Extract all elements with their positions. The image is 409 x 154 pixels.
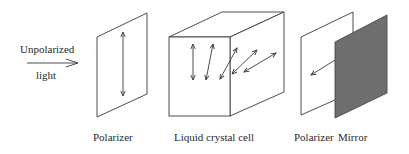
unpolarized-label: Unpolarized — [20, 43, 74, 55]
liquid-crystal-cell-label: Liquid crystal cell — [174, 131, 254, 143]
polarizer-1 — [97, 13, 147, 117]
mirror-label: Mirror — [338, 131, 367, 143]
polarizer-2-label: Polarizer — [294, 131, 334, 143]
input-light-arrow — [27, 59, 78, 67]
liquid-crystal-cell — [169, 12, 284, 116]
light-label: light — [36, 69, 56, 81]
polarizer-1-label: Polarizer — [93, 131, 133, 143]
